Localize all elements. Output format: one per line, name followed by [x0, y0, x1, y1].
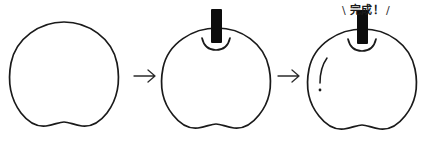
completion-caption: \ 完成！ /	[342, 3, 390, 17]
apple-outline-path-2	[162, 28, 271, 128]
step-1-apple-body-outline	[10, 22, 119, 126]
apple-drawing-tutorial: \ 完成！ /	[0, 0, 429, 145]
caption-label: 完成！	[350, 3, 384, 17]
caption-slash-left: \	[342, 4, 346, 17]
apple-shine-dot	[319, 89, 322, 92]
apple-stem-2	[211, 9, 222, 43]
apple-outline-path-3	[308, 29, 417, 129]
apple-outline-path-1	[10, 22, 119, 126]
caption-slash-right: /	[386, 4, 390, 17]
